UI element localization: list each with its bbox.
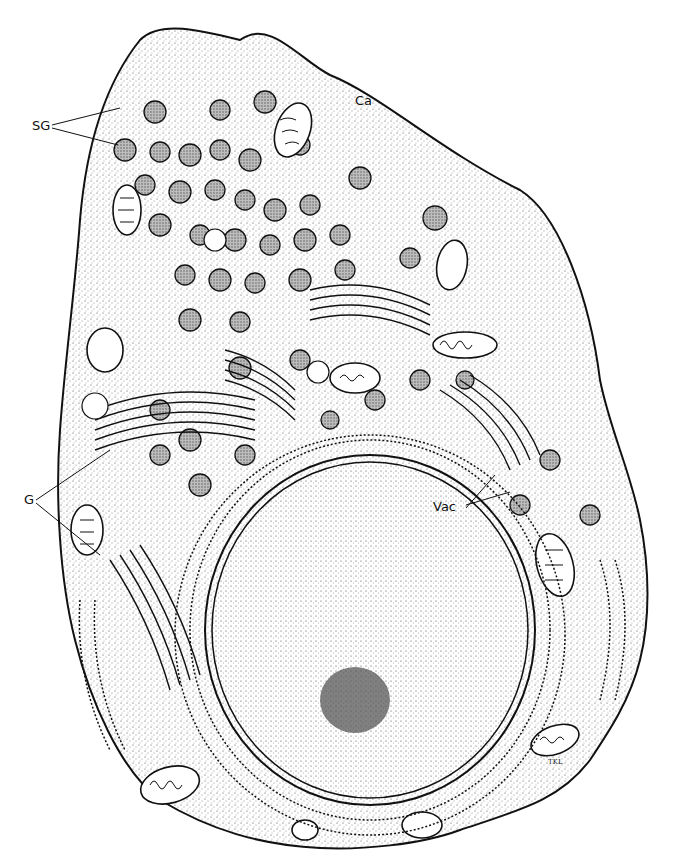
cell-drawing — [0, 0, 675, 863]
label-ca: Ca — [355, 94, 372, 107]
cell-illustration: SG Ca G Vac TKL — [0, 0, 675, 863]
label-sg: SG — [32, 119, 50, 132]
artist-signature: TKL — [548, 758, 563, 766]
label-vac: Vac — [433, 500, 456, 513]
nucleus — [212, 462, 528, 798]
nucleolus — [320, 667, 390, 733]
label-g: G — [24, 493, 34, 506]
